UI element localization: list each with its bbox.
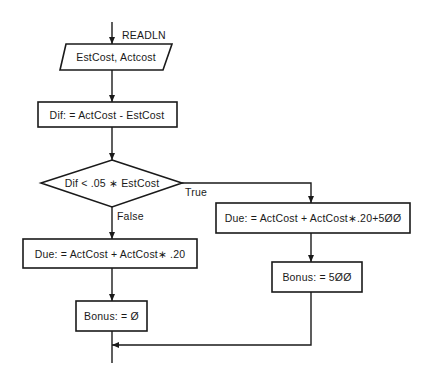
bonus-true-node-text: Bonus: = 5ØØ: [282, 271, 351, 283]
bonus-true-node: Bonus: = 5ØØ: [272, 262, 362, 292]
arrowhead-icon: [109, 37, 115, 44]
false-label: False: [117, 210, 144, 222]
flowchart-svg: READLN EstCost, Actcost Dif: = ActCost -…: [0, 0, 434, 383]
connector-due-bonus-false: [109, 268, 115, 301]
flowchart-canvas: READLN EstCost, Actcost Dif: = ActCost -…: [0, 0, 434, 383]
bonus-false-node: Bonus: = Ø: [76, 301, 147, 331]
dif-node-text: Dif: = ActCost - EstCost: [50, 109, 165, 121]
arrowhead-icon: [308, 255, 314, 262]
arrowhead-icon: [308, 196, 314, 203]
dif-node: Dif: = ActCost - EstCost: [38, 102, 177, 127]
decision-node: Dif < .05 ∗ EstCost: [41, 160, 182, 207]
arrowhead-icon: [109, 95, 115, 102]
arrowhead-icon: [109, 153, 115, 160]
bonus-false-node-text: Bonus: = Ø: [84, 310, 139, 322]
due-false-node: Due: = ActCost + ActCost∗ .20: [23, 239, 197, 268]
arrowhead-icon: [109, 294, 115, 301]
connector-input-dif: [109, 70, 115, 102]
decision-node-text: Dif < .05 ∗ EstCost: [65, 177, 160, 189]
connector-due-bonus-true: [308, 233, 314, 262]
due-true-node: Due: = ActCost + ActCost∗.20+5ØØ: [216, 203, 410, 233]
true-label: True: [185, 186, 207, 198]
due-true-node-text: Due: = ActCost + ActCost∗.20+5ØØ: [225, 212, 402, 224]
arrowhead-icon: [109, 232, 115, 239]
due-false-node-text: Due: = ActCost + ActCost∗ .20: [35, 248, 186, 260]
connector-dif-decision: [109, 127, 115, 160]
connector-false-branch: [109, 207, 115, 239]
input-node: EstCost, Actcost: [60, 44, 172, 70]
arrowhead-icon: [112, 342, 119, 348]
input-node-text: EstCost, Actcost: [76, 51, 156, 63]
entry-connector: [109, 22, 115, 44]
readln-label: READLN: [122, 29, 166, 41]
